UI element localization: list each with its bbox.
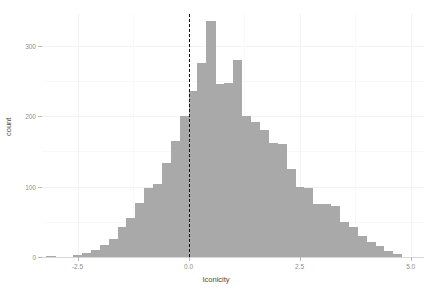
histogram-bar xyxy=(366,242,375,257)
y-tick-mark xyxy=(38,187,42,188)
histogram-bar xyxy=(180,116,189,257)
zero-reference-line xyxy=(189,14,190,257)
x-axis-line xyxy=(42,257,424,258)
histogram-bar xyxy=(91,250,100,257)
plot-panel xyxy=(42,14,424,257)
histogram-bar xyxy=(304,188,313,257)
histogram-bar xyxy=(162,163,171,257)
x-tick-label: -2.5 xyxy=(72,263,83,270)
histogram-bar xyxy=(135,203,144,257)
histogram-bar xyxy=(215,84,224,257)
y-tick-label: 300 xyxy=(25,42,36,49)
y-tick-mark xyxy=(38,116,42,117)
y-axis-title: count xyxy=(4,118,13,136)
histogram-bar xyxy=(357,236,366,257)
histogram-bar xyxy=(224,83,233,257)
x-tick-label: 0.0 xyxy=(184,263,193,270)
histogram-bar xyxy=(171,141,180,257)
y-tick-mark xyxy=(38,257,42,258)
histogram-bar xyxy=(286,169,295,257)
histogram-bar xyxy=(251,122,260,257)
y-tick-label: 200 xyxy=(25,113,36,120)
histogram-bar xyxy=(260,130,269,257)
y-tick-label: 0 xyxy=(32,254,36,261)
histogram-bar xyxy=(206,21,215,257)
histogram-chart: -2.50.02.55.0 0100200300 Iconicity count xyxy=(0,0,432,302)
histogram-bar xyxy=(233,60,242,257)
histogram-bar xyxy=(348,227,357,257)
histogram-bar xyxy=(100,245,109,257)
x-axis-title: Iconicity xyxy=(0,275,432,284)
histogram-bar xyxy=(295,187,304,257)
histogram-bar xyxy=(126,218,135,257)
histogram-bar xyxy=(277,144,286,257)
histogram-bar xyxy=(375,246,384,257)
x-tick-label: 5.0 xyxy=(406,263,415,270)
histogram-bar xyxy=(118,227,127,257)
histogram-bar xyxy=(189,91,198,257)
histogram-bar xyxy=(153,184,162,257)
histogram-bar xyxy=(340,222,349,257)
histogram-bar xyxy=(269,143,278,257)
x-tick-mark xyxy=(78,257,79,261)
x-tick-mark xyxy=(189,257,190,261)
histogram-bar xyxy=(242,116,251,257)
histogram-bar xyxy=(331,206,340,257)
x-tick-mark xyxy=(300,257,301,261)
x-tick-label: 2.5 xyxy=(295,263,304,270)
x-tick-mark xyxy=(411,257,412,261)
histogram-bar xyxy=(313,204,322,257)
y-tick-label: 100 xyxy=(25,183,36,190)
histogram-bar xyxy=(144,188,153,257)
histogram-bar xyxy=(322,204,331,257)
y-tick-mark xyxy=(38,46,42,47)
histogram-bar xyxy=(197,63,206,257)
histogram-bar xyxy=(109,239,118,257)
histogram-bars xyxy=(42,14,424,257)
